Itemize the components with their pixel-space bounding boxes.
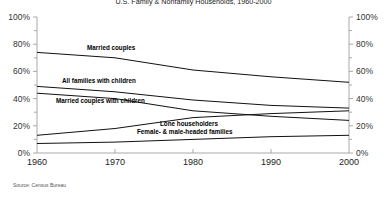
series-label-lone-householders: Lone householders [160, 120, 218, 127]
y-axis-label-right: 20% [356, 121, 373, 131]
x-axis-label: 1960 [27, 157, 47, 167]
y-axis-label-left: 40% [13, 94, 30, 104]
series-line-4 [37, 135, 349, 143]
x-axis-label: 1990 [261, 157, 281, 167]
series-label-married-couples-with-children: Married couples with children [56, 97, 145, 104]
y-axis-label-left: 100% [8, 12, 30, 22]
y-axis-label-left: 20% [13, 121, 30, 131]
x-axis-label: 2000 [339, 157, 359, 167]
y-axis-label-right: 60% [356, 66, 373, 76]
source-note: Source: Census Bureau [13, 182, 66, 188]
y-axis-label-left: 80% [13, 39, 30, 49]
y-axis-label-right: 100% [356, 12, 378, 22]
y-axis-label-right: 80% [356, 39, 373, 49]
series-label-all-families-with-children: All families with children [62, 77, 136, 84]
x-axis-label: 1970 [105, 157, 125, 167]
y-axis-label-left: 60% [13, 66, 30, 76]
chart-figure: U.S. Family & Nonfamily Households, 1960… [0, 0, 387, 198]
series-label-married-couples: Married couples [87, 44, 135, 51]
y-axis-label-right: 40% [356, 94, 373, 104]
series-label-female-male-headed-families: Female- & male-headed families [137, 128, 233, 135]
x-axis-label: 1980 [183, 157, 203, 167]
